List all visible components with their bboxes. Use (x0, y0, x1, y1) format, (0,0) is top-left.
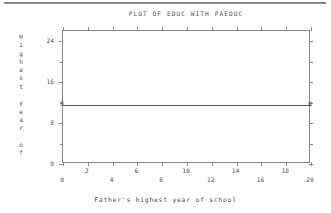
axis-tick (59, 123, 63, 124)
y-axis-label-char: y (16, 99, 26, 107)
axis-tick (261, 162, 262, 166)
y-axis-label-char: H (16, 33, 26, 41)
y-axis-label-char: g (16, 50, 26, 58)
y-axis-label: H i g h e s t y e a r o f (16, 33, 26, 157)
axis-tick (88, 27, 89, 31)
r-marker-right: R (306, 101, 314, 107)
axis-tick (237, 162, 238, 166)
r-marker-left: R (58, 101, 66, 107)
axis-tick (162, 27, 163, 31)
y-axis-label-char: a (16, 116, 26, 124)
axis-tick (113, 27, 114, 31)
regression-line (63, 105, 311, 106)
axis-tick (286, 27, 287, 31)
x-tick-label-16: 16 (252, 176, 268, 183)
x-tick-label-2: 2 (79, 167, 95, 174)
axis-tick (212, 162, 213, 166)
axis-tick (63, 162, 64, 166)
x-tick-label-8: 8 (153, 176, 169, 183)
axis-tick (59, 82, 63, 83)
y-tick-label-24: 24 (38, 37, 54, 44)
x-tick-label-12: 12 (203, 176, 219, 183)
axis-tick (237, 27, 238, 31)
axis-tick (261, 27, 262, 31)
x-tick-label-14: 14 (228, 167, 244, 174)
y-axis-label-char: r (16, 124, 26, 132)
x-tick-label-20: 20 (302, 176, 318, 183)
x-axis-label: Father's highest year of school (0, 196, 331, 204)
y-axis-label-char: f (16, 149, 26, 157)
axis-tick (311, 27, 312, 31)
axis-tick (309, 123, 313, 124)
y-axis-label-char: s (16, 74, 26, 82)
axis-tick (309, 41, 313, 42)
y-tick-label-16: 16 (38, 78, 54, 85)
plot-area[interactable] (62, 30, 310, 163)
y-axis-label-char: e (16, 108, 26, 116)
axis-tick (162, 162, 163, 166)
axis-tick (59, 41, 63, 42)
page-top-rule (4, 2, 326, 4)
y-axis-label-char: i (16, 41, 26, 49)
axis-tick (63, 27, 64, 31)
y-tick-label-0: 0 (38, 160, 54, 167)
axis-tick (309, 164, 313, 165)
axis-tick (88, 162, 89, 166)
axis-tick (212, 27, 213, 31)
y-axis-label-char: o (16, 141, 26, 149)
axis-tick (309, 82, 313, 83)
y-axis-label-char: t (16, 83, 26, 91)
axis-tick (60, 144, 63, 145)
x-tick-label-4: 4 (104, 176, 120, 183)
axis-tick (187, 27, 188, 31)
x-tick-label-18: 18 (277, 167, 293, 174)
axis-tick (60, 62, 63, 63)
y-tick-label-8: 8 (38, 119, 54, 126)
axis-tick (137, 27, 138, 31)
chart-title: PLOT OF EDUC WITH PAEDUC (62, 10, 310, 17)
axis-tick (309, 144, 313, 145)
y-axis-label-char: e (16, 66, 26, 74)
x-tick-label-0: 0 (54, 176, 70, 183)
y-axis-label-char: h (16, 58, 26, 66)
axis-tick (187, 162, 188, 166)
axis-tick (286, 162, 287, 166)
axis-tick (309, 62, 313, 63)
axis-tick (113, 162, 114, 166)
x-tick-label-6: 6 (128, 167, 144, 174)
axis-tick (137, 162, 138, 166)
x-tick-label-10: 10 (178, 167, 194, 174)
axis-tick (59, 164, 63, 165)
